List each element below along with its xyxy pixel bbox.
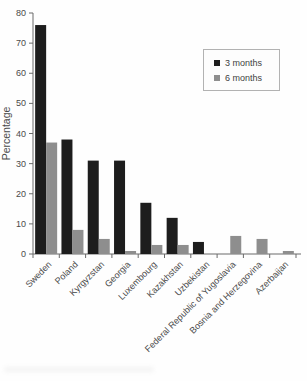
bar-6-months-poland [72, 230, 83, 254]
chart-legend: 3 months 6 months [203, 49, 280, 91]
legend-swatch-6-months [214, 75, 220, 81]
bar-6-months-bosnia-and-herzegovina [257, 239, 268, 254]
bar-3-months-uzbekistan [193, 242, 204, 254]
legend-item-3-months: 3 months [214, 58, 279, 68]
chart-page: 01020304050607080SwedenPolandKyrgyzstanG… [0, 0, 307, 381]
legend-swatch-3-months [214, 60, 220, 66]
bar-6-months-luxembourg [151, 245, 162, 254]
bar-6-months-kyrgyzstan [99, 239, 110, 254]
x-category-label: Sweden [23, 259, 53, 289]
y-tick-label: 10 [16, 219, 26, 229]
bar-3-months-kyrgyzstan [88, 161, 99, 254]
bar-6-months-georgia [125, 251, 136, 254]
y-tick-label: 0 [21, 249, 26, 259]
y-tick-label: 50 [16, 98, 26, 108]
bar-3-months-kazakhstan [167, 218, 178, 254]
y-tick-label: 30 [16, 159, 26, 169]
bar-3-months-georgia [114, 161, 125, 254]
legend-label-3-months: 3 months [225, 58, 262, 68]
bar-3-months-poland [61, 140, 72, 254]
bar-3-months-sweden [35, 25, 46, 254]
bar-6-months-federal-republic-of-yugoslavia [230, 236, 241, 254]
y-tick-label: 80 [16, 8, 26, 18]
bar-3-months-luxembourg [140, 203, 151, 254]
legend-item-6-months: 6 months [214, 73, 279, 83]
scan-artifact [4, 367, 154, 372]
legend-label-6-months: 6 months [225, 73, 262, 83]
bar-6-months-sweden [46, 143, 57, 254]
bar-6-months-azerbaijan [283, 251, 294, 254]
y-axis-title: Percentage [0, 106, 12, 160]
y-tick-label: 40 [16, 129, 26, 139]
y-tick-label: 20 [16, 189, 26, 199]
bar-6-months-kazakhstan [178, 245, 189, 254]
y-tick-label: 70 [16, 38, 26, 48]
y-tick-label: 60 [16, 68, 26, 78]
